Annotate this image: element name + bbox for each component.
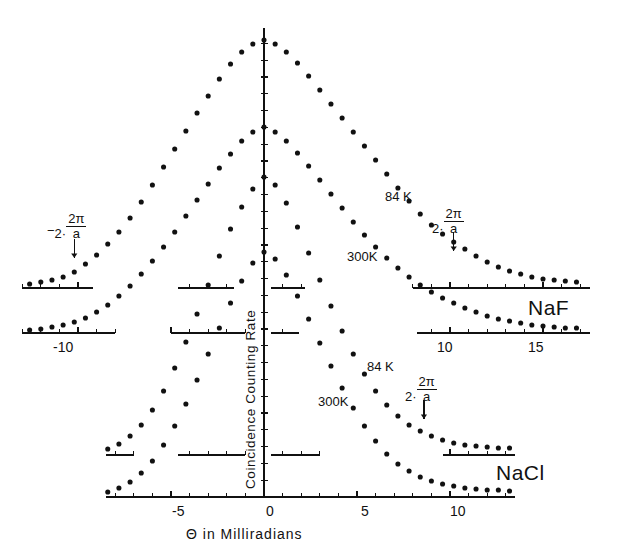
data-point [306, 163, 311, 168]
x-tick-label-nacl-neg5: -5 [172, 504, 184, 518]
data-point [139, 470, 144, 475]
data-point [239, 138, 244, 143]
x-tick-label-nacl-10: 10 [450, 504, 466, 518]
data-point [317, 277, 322, 282]
data-point [574, 279, 579, 284]
data-point [473, 309, 478, 314]
data-point [128, 283, 133, 288]
data-point [139, 199, 144, 204]
data-point [172, 146, 177, 151]
data-point [161, 388, 166, 393]
data-point [317, 340, 322, 345]
data-point [61, 322, 66, 327]
data-point [473, 486, 478, 491]
data-point [295, 293, 300, 298]
data-point [139, 271, 144, 276]
data-point [306, 316, 311, 321]
data-point [172, 229, 177, 234]
umklapp-nacl-top: 2π [417, 375, 437, 389]
umklapp-left-sign: − [47, 223, 55, 238]
data-point [105, 489, 110, 494]
data-point [496, 487, 501, 492]
series-label-naf-300k: 300K [347, 250, 377, 263]
data-point [507, 488, 512, 493]
data-point [284, 49, 289, 54]
data-point [161, 244, 166, 249]
data-point [273, 182, 278, 187]
y-axis-title: Coincidence Counting Rate [243, 310, 258, 489]
data-point [529, 274, 534, 279]
data-point [540, 323, 545, 328]
data-point [351, 405, 356, 410]
data-point [395, 461, 400, 466]
data-point [507, 268, 512, 273]
data-point [273, 256, 278, 261]
data-point [451, 440, 456, 445]
data-point [351, 351, 356, 356]
data-point [407, 422, 412, 427]
data-point [239, 204, 244, 209]
data-point [228, 61, 233, 66]
data-point [273, 41, 278, 46]
data-point [518, 320, 523, 325]
data-point [38, 326, 43, 331]
angular-correlation-figure: -10 10 15 -5 0 5 10 Θ in Milliradians Co… [0, 0, 623, 558]
data-point [116, 293, 121, 298]
data-point [295, 60, 300, 65]
data-point [49, 277, 54, 282]
data-point [418, 211, 423, 216]
x-tick-label-nacl-0: 0 [266, 504, 274, 518]
data-point [261, 249, 266, 254]
data-point [317, 87, 322, 92]
data-point [540, 276, 545, 281]
data-point [340, 205, 345, 210]
data-point [217, 325, 222, 330]
data-point [261, 174, 266, 179]
series-label-nacl-84k: 84 K [367, 360, 394, 373]
data-point [328, 101, 333, 106]
data-point [373, 388, 378, 393]
data-point [485, 487, 490, 492]
data-point [384, 402, 389, 407]
x-tick-label-naf-10: 10 [437, 340, 453, 354]
data-point [239, 278, 244, 283]
data-point [206, 93, 211, 98]
data-point [194, 377, 199, 382]
data-point [83, 261, 88, 266]
data-point [206, 282, 211, 287]
data-point [27, 327, 32, 332]
umklapp-naf-top: 2π [444, 207, 464, 221]
data-point [72, 269, 77, 274]
data-point [284, 272, 289, 277]
x-tick-label-naf-neg10: -10 [53, 340, 73, 354]
axes-layer [22, 28, 589, 497]
data-point [172, 365, 177, 370]
data-point [485, 259, 490, 264]
data-point [128, 433, 133, 438]
data-point [217, 253, 222, 258]
data-point [228, 151, 233, 156]
data-point [429, 289, 434, 294]
data-point [440, 437, 445, 442]
data-point [485, 444, 490, 449]
data-point [94, 309, 99, 314]
data-point [284, 200, 289, 205]
umklapp-label-right-naf: 2· 2π a [432, 207, 464, 236]
material-label-naf: NaF [528, 297, 569, 318]
data-point [49, 324, 54, 329]
data-point [362, 232, 367, 237]
data-point [552, 277, 557, 282]
data-point [161, 442, 166, 447]
series-naf-300-k [27, 124, 579, 332]
data-point [496, 316, 501, 321]
data-point [217, 165, 222, 170]
data-point [351, 129, 356, 134]
data-point [228, 226, 233, 231]
data-point [295, 224, 300, 229]
data-point [328, 363, 333, 368]
data-point [340, 115, 345, 120]
data-point [462, 485, 467, 490]
data-point [61, 274, 66, 279]
data-point [407, 468, 412, 473]
data-point [373, 157, 378, 162]
